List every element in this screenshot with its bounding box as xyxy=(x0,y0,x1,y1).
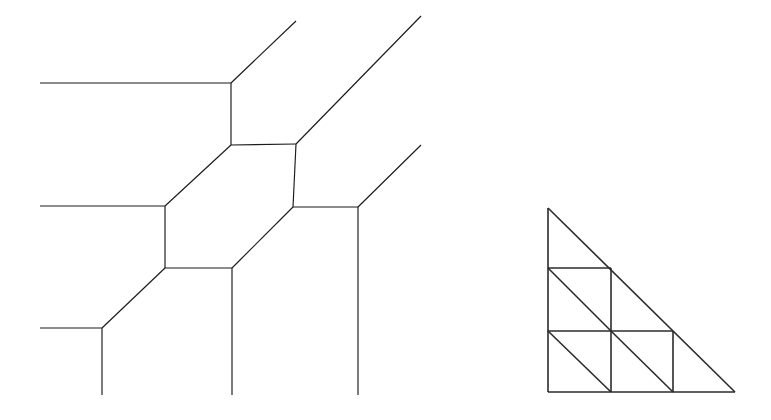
figure-background xyxy=(0,0,771,420)
figure-canvas xyxy=(0,0,771,420)
figure-container xyxy=(0,0,771,420)
